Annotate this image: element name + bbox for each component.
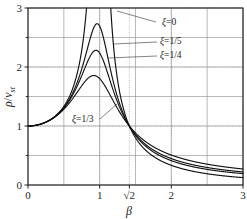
x-tick-label: 3 [240, 189, 246, 201]
x-tick-label: 1 [97, 189, 103, 201]
series-label-4: ξ=1/3 [72, 114, 94, 125]
x-axis-label: β [125, 204, 132, 218]
y-tick-label: 2 [17, 61, 23, 73]
series-label-1: ξ=0 [162, 17, 176, 28]
series-label-3: ξ=1/4 [160, 50, 182, 61]
y-label-subscript: st [8, 86, 17, 92]
x-tick-label: 0 [25, 189, 31, 201]
x-tick-label: √2 [124, 189, 136, 201]
transmissibility-chart: 01√223 0123 ξ=0ξ=1/5ξ=1/4ξ=1/3 β ρ/νst [0, 0, 247, 219]
y-tick-label: 1 [17, 120, 23, 132]
y-tick-label: 0 [17, 179, 23, 191]
y-tick-label: 3 [17, 2, 23, 14]
figure-container: 01√223 0123 ξ=0ξ=1/5ξ=1/4ξ=1/3 β ρ/νst [0, 0, 247, 219]
x-tick-label: 2 [169, 189, 175, 201]
series-label-2: ξ=1/5 [160, 36, 182, 47]
